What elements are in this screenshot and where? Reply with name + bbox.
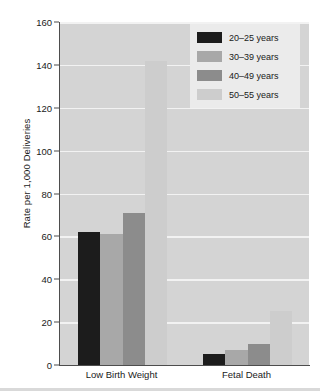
y-axis-tick-mark bbox=[54, 236, 59, 237]
bar bbox=[270, 311, 292, 365]
y-axis-tick-mark bbox=[54, 279, 59, 280]
x-axis-tick-label: Low Birth Weight bbox=[86, 369, 158, 380]
bar-group bbox=[78, 22, 167, 365]
legend-label: 30–39 years bbox=[229, 52, 279, 62]
y-axis-tick-label: 140 bbox=[22, 59, 52, 70]
bar bbox=[248, 344, 270, 365]
y-axis-tick-mark bbox=[54, 150, 59, 151]
legend-label: 20–25 years bbox=[229, 33, 279, 43]
y-axis-tick-mark bbox=[54, 22, 59, 23]
legend-swatch-icon bbox=[197, 70, 222, 81]
bar bbox=[100, 234, 122, 365]
legend-label: 50–55 years bbox=[229, 90, 279, 100]
legend-swatch-icon bbox=[197, 89, 222, 100]
y-axis-tick-labels: 160140120100806040200 bbox=[22, 0, 52, 391]
y-axis-tick-label: 100 bbox=[22, 145, 52, 156]
y-axis-tick-mark bbox=[54, 107, 59, 108]
y-axis-tick-label: 120 bbox=[22, 102, 52, 113]
x-axis-tick-label: Fetal Death bbox=[222, 369, 271, 380]
y-axis-tick-label: 160 bbox=[22, 17, 52, 28]
y-axis-tick-mark bbox=[54, 193, 59, 194]
bar bbox=[203, 354, 225, 365]
y-axis-tick-label: 20 bbox=[22, 317, 52, 328]
y-axis-tick-mark bbox=[54, 64, 59, 65]
legend-swatch-icon bbox=[197, 32, 222, 43]
y-axis-tick-label: 0 bbox=[22, 360, 52, 371]
legend-item[interactable]: 40–49 years bbox=[197, 67, 294, 84]
bar-chart-figure: Rate per 1,000 Deliveries 16014012010080… bbox=[0, 0, 320, 391]
y-axis-tick-label: 60 bbox=[22, 231, 52, 242]
x-axis-line bbox=[59, 365, 310, 366]
legend-swatch-icon bbox=[197, 51, 222, 62]
y-axis-tick-mark bbox=[54, 322, 59, 323]
legend-item[interactable]: 50–55 years bbox=[197, 86, 294, 103]
legend-label: 40–49 years bbox=[229, 71, 279, 81]
bar bbox=[123, 213, 145, 365]
y-axis-tick-label: 40 bbox=[22, 274, 52, 285]
legend-item[interactable]: 20–25 years bbox=[197, 29, 294, 46]
legend-item[interactable]: 30–39 years bbox=[197, 48, 294, 65]
y-axis-tick-label: 80 bbox=[22, 188, 52, 199]
bar bbox=[78, 232, 100, 365]
chart-legend: 20–25 years30–39 years40–49 years50–55 y… bbox=[190, 24, 300, 108]
y-axis-tick-mark bbox=[54, 365, 59, 366]
bar bbox=[145, 61, 167, 365]
bar bbox=[225, 350, 247, 365]
